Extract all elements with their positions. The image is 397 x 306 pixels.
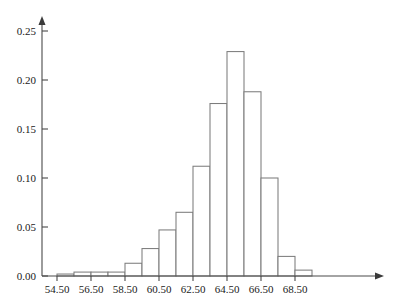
y-tick-label: 0.20: [17, 74, 37, 86]
histogram-bar: [125, 263, 142, 276]
histogram-bar: [193, 166, 210, 276]
y-axis-ticks: 0.000.050.100.150.200.25: [17, 25, 48, 282]
histogram-bar: [210, 104, 227, 276]
x-tick-label: 62.50: [181, 283, 206, 295]
x-tick-label: 58.50: [113, 283, 138, 295]
histogram-bar: [108, 272, 125, 276]
histogram-bar: [261, 178, 278, 276]
x-tick-label: 64.50: [215, 283, 240, 295]
histogram-bar: [142, 249, 159, 276]
y-tick-label: 0.05: [17, 221, 37, 233]
histogram-bar: [244, 92, 261, 276]
x-axis-ticks: 54.5056.5058.5060.5062.5064.5066.5068.50: [45, 276, 308, 295]
histogram-bar: [278, 256, 295, 276]
x-tick-label: 56.50: [79, 283, 104, 295]
histogram-bar: [91, 272, 108, 276]
y-axis-arrow-icon: [39, 16, 46, 25]
y-tick-label: 0.15: [17, 123, 37, 135]
x-tick-label: 68.50: [283, 283, 308, 295]
y-tick-label: 0.25: [17, 25, 37, 37]
x-tick-label: 54.50: [45, 283, 70, 295]
histogram-bars: [57, 52, 312, 276]
histogram-chart: 0.000.050.100.150.200.25 54.5056.5058.50…: [0, 0, 397, 306]
histogram-bar: [176, 212, 193, 276]
histogram-bar: [227, 52, 244, 276]
y-tick-label: 0.00: [17, 270, 37, 282]
x-tick-label: 60.50: [147, 283, 172, 295]
y-tick-label: 0.10: [17, 172, 37, 184]
histogram-bar: [295, 270, 312, 276]
histogram-bar: [159, 230, 176, 276]
histogram-bar: [74, 272, 91, 276]
chart-canvas: 0.000.050.100.150.200.25 54.5056.5058.50…: [0, 0, 397, 306]
x-tick-label: 66.50: [249, 283, 274, 295]
x-axis-arrow-icon: [375, 273, 384, 280]
